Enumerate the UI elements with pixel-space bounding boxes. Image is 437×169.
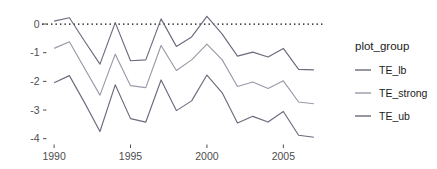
legend-label-te-strong: TE_strong: [379, 87, 428, 99]
line-chart: 0-1-2-3-4 1990199520002005 plot_group TE…: [0, 0, 437, 169]
x-tick-label: 2005: [272, 150, 296, 162]
y-tick-label: 0: [34, 18, 40, 30]
chart-background: [0, 0, 437, 169]
x-tick-label: 1995: [119, 150, 143, 162]
x-tick-label: 1990: [42, 150, 66, 162]
chart-figure: 0-1-2-3-4 1990199520002005 plot_group TE…: [0, 0, 437, 169]
y-tick-label: -2: [30, 75, 39, 87]
legend-title: plot_group: [355, 40, 409, 52]
legend-label-te-lb: TE_lb: [379, 64, 407, 76]
y-tick-label: -4: [30, 132, 39, 144]
y-tick-label: -1: [30, 46, 39, 58]
x-tick-label: 2000: [195, 150, 219, 162]
y-tick-label: -3: [30, 104, 39, 116]
legend-label-te-ub: TE_ub: [379, 110, 410, 122]
